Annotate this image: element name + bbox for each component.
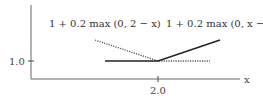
solid-hinge-right-line xyxy=(105,40,220,61)
y-tick-label: 1.0 xyxy=(9,56,25,67)
dotted-hinge-left-line xyxy=(95,40,210,61)
right-formula-label: 1 + 0.2 max (0, x − 2) xyxy=(166,18,263,29)
x-tick-label: 2.0 xyxy=(150,85,166,96)
hinge-function-diagram: 1.0 2.0 x 1 + 0.2 max (0, 2 − x) 1 + 0.2… xyxy=(0,0,263,101)
left-formula-label: 1 + 0.2 max (0, 2 − x) xyxy=(49,18,161,29)
x-axis-label: x xyxy=(244,74,250,85)
